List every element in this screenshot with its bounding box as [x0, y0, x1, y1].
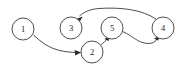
edge-5-to-4: [123, 32, 158, 44]
node-2-label: 2: [90, 47, 94, 57]
node-1-label: 1: [21, 24, 25, 34]
graph-node-3[interactable]: 3: [60, 17, 82, 39]
graph-node-1[interactable]: 1: [12, 18, 34, 40]
nodes-group: 1 3 5 4 2: [12, 17, 174, 63]
edge-1-to-2-arrowhead: [75, 50, 82, 55]
graph-node-5[interactable]: 5: [101, 17, 123, 39]
node-5-label: 5: [110, 23, 114, 33]
edge-4-to-3: [80, 8, 157, 19]
graph-node-4[interactable]: 4: [152, 17, 174, 39]
node-3-label: 3: [69, 23, 73, 33]
directed-graph-figure: 1 3 5 4 2: [0, 0, 185, 71]
graph-node-2[interactable]: 2: [81, 41, 103, 63]
